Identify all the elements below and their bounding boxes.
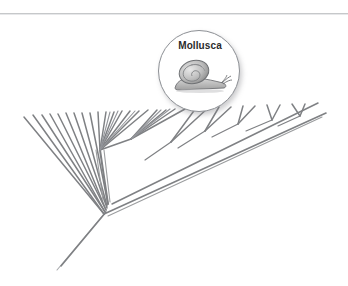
callout-label: Mollusca [159, 40, 241, 51]
snail-icon [167, 57, 233, 97]
diagram-canvas: Mollusca [0, 0, 348, 286]
mollusca-callout-bubble[interactable]: Mollusca [158, 30, 240, 112]
